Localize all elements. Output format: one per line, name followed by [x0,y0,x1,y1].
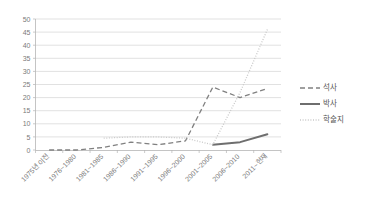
chart-canvas: 05101520253035404550 1975년 이전1976~198019… [0,0,368,209]
y-tick-label: 50 [23,16,31,23]
y-tick-label: 45 [23,29,31,36]
y-tick-label: 35 [23,55,31,62]
y-tick-label: 5 [27,134,31,141]
y-tick-label: 0 [27,147,31,154]
legend-label[interactable]: 석사 [323,82,337,92]
y-tick-label: 40 [23,42,31,49]
y-tick-label: 25 [23,81,31,88]
y-tick-label: 20 [23,94,31,101]
y-tick-label: 30 [23,68,31,75]
y-tick-label: 10 [23,120,31,127]
legend-label[interactable]: 박사 [323,98,337,108]
line-chart: 05101520253035404550 1975년 이전1976~198019… [0,0,368,209]
legend-label[interactable]: 학술지 [323,114,344,124]
y-tick-label: 15 [23,107,31,114]
